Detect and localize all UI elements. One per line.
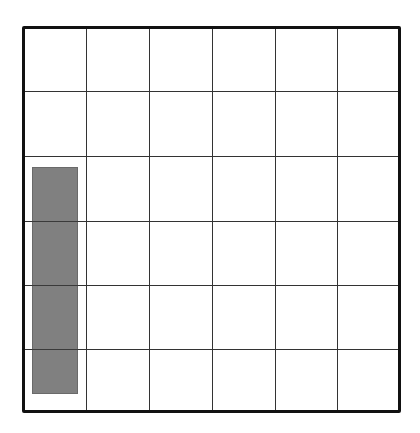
grid-vline <box>86 29 87 410</box>
grid-vline <box>337 29 338 410</box>
grid-vline <box>275 29 276 410</box>
grid-hline-overlay <box>32 285 78 286</box>
grid-hline <box>25 221 398 222</box>
grid-frame <box>22 26 401 413</box>
grid-vline <box>212 29 213 410</box>
grid-hline <box>25 285 398 286</box>
grid-hline-overlay <box>32 221 78 222</box>
grid-hline <box>25 349 398 350</box>
grid-hline <box>25 91 398 92</box>
grid-vline <box>149 29 150 410</box>
shaded-rectangle <box>32 167 78 394</box>
diagram-canvas <box>0 0 420 433</box>
grid-hline-overlay <box>32 349 78 350</box>
grid-hline <box>25 156 398 157</box>
